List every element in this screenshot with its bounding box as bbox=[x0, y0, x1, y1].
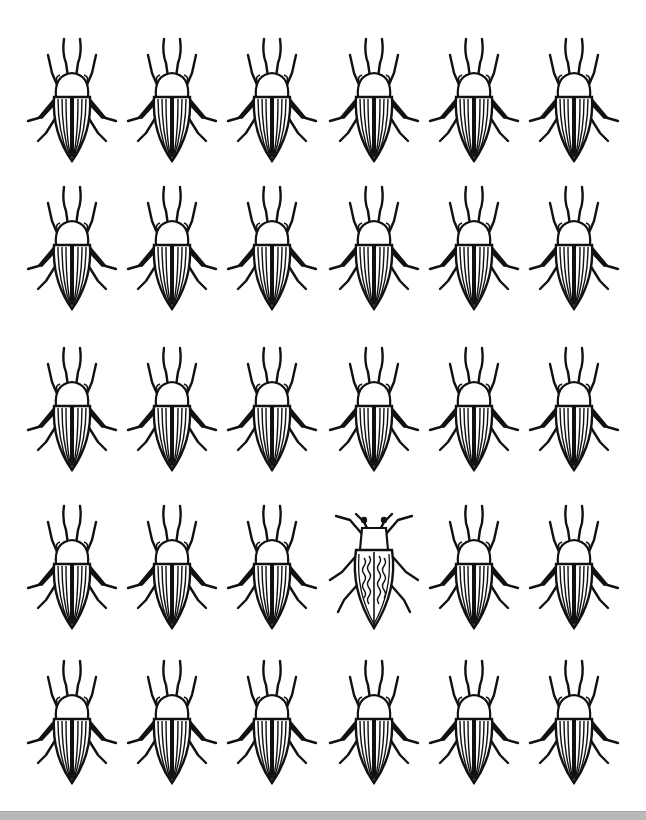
striped-beetle-icon bbox=[526, 33, 622, 165]
striped-beetle-icon bbox=[24, 342, 120, 474]
striped-beetle-icon bbox=[124, 500, 220, 632]
striped-beetle-icon bbox=[24, 181, 120, 313]
bottom-band bbox=[0, 811, 646, 820]
striped-beetle-icon bbox=[326, 33, 422, 165]
striped-beetle-icon bbox=[426, 655, 522, 787]
beetle-grid bbox=[0, 0, 646, 811]
beetle[interactable] bbox=[326, 655, 422, 787]
striped-beetle-icon bbox=[124, 33, 220, 165]
striped-beetle-icon bbox=[124, 655, 220, 787]
beetle[interactable] bbox=[224, 342, 320, 474]
striped-beetle-icon bbox=[124, 181, 220, 313]
striped-beetle-icon bbox=[224, 500, 320, 632]
beetle[interactable] bbox=[224, 655, 320, 787]
beetle[interactable] bbox=[24, 342, 120, 474]
striped-beetle-icon bbox=[326, 655, 422, 787]
beetle[interactable] bbox=[526, 181, 622, 313]
striped-beetle-icon bbox=[24, 500, 120, 632]
beetle[interactable] bbox=[224, 33, 320, 165]
striped-beetle-icon bbox=[124, 342, 220, 474]
beetle[interactable] bbox=[326, 33, 422, 165]
beetle[interactable] bbox=[124, 181, 220, 313]
striped-beetle-icon bbox=[224, 342, 320, 474]
beetle[interactable] bbox=[426, 181, 522, 313]
striped-beetle-icon bbox=[426, 181, 522, 313]
beetle[interactable] bbox=[326, 342, 422, 474]
striped-beetle-icon bbox=[326, 342, 422, 474]
beetle[interactable] bbox=[124, 342, 220, 474]
beetle[interactable] bbox=[426, 655, 522, 787]
beetle[interactable] bbox=[426, 33, 522, 165]
beetle[interactable] bbox=[426, 500, 522, 632]
striped-beetle-icon bbox=[224, 33, 320, 165]
striped-beetle-icon bbox=[526, 342, 622, 474]
striped-beetle-icon bbox=[224, 181, 320, 313]
beetle[interactable] bbox=[526, 33, 622, 165]
beetle[interactable] bbox=[24, 500, 120, 632]
striped-beetle-icon bbox=[426, 342, 522, 474]
striped-beetle-icon bbox=[326, 181, 422, 313]
beetle[interactable] bbox=[526, 655, 622, 787]
beetle[interactable] bbox=[224, 181, 320, 313]
odd-beetle[interactable] bbox=[326, 500, 422, 632]
striped-beetle-icon bbox=[526, 181, 622, 313]
striped-beetle-icon bbox=[426, 33, 522, 165]
beetle[interactable] bbox=[124, 500, 220, 632]
beetle[interactable] bbox=[124, 655, 220, 787]
striped-beetle-icon bbox=[224, 655, 320, 787]
beetle[interactable] bbox=[24, 655, 120, 787]
beetle[interactable] bbox=[326, 181, 422, 313]
striped-beetle-icon bbox=[24, 655, 120, 787]
striped-beetle-icon bbox=[526, 500, 622, 632]
striped-beetle-icon bbox=[24, 33, 120, 165]
beetle[interactable] bbox=[526, 342, 622, 474]
beetle[interactable] bbox=[426, 342, 522, 474]
wavy-striped-beetle-icon bbox=[326, 500, 422, 632]
beetle[interactable] bbox=[24, 33, 120, 165]
beetle[interactable] bbox=[124, 33, 220, 165]
beetle[interactable] bbox=[526, 500, 622, 632]
beetle[interactable] bbox=[24, 181, 120, 313]
striped-beetle-icon bbox=[526, 655, 622, 787]
beetle[interactable] bbox=[224, 500, 320, 632]
striped-beetle-icon bbox=[426, 500, 522, 632]
